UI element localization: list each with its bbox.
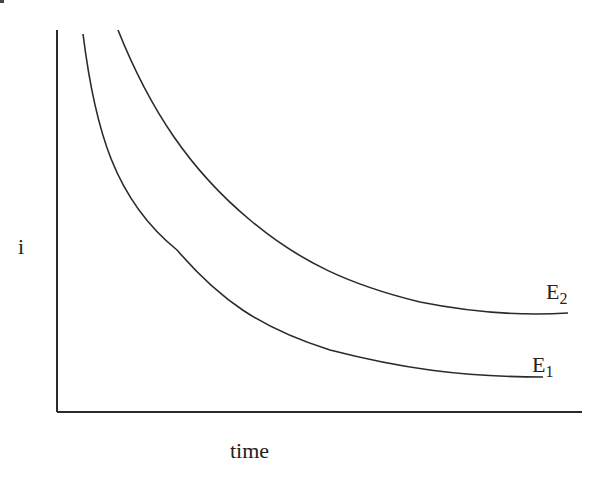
- series-label-e2-main: E: [546, 279, 559, 304]
- series-label-e1-main: E: [532, 352, 545, 377]
- curve-e2: [118, 30, 568, 314]
- curve-e1: [83, 34, 543, 377]
- chart-canvas: [0, 0, 605, 480]
- x-axis-label: time: [230, 438, 269, 464]
- y-axis-label: i: [18, 234, 24, 260]
- series-label-e1: E1: [532, 352, 553, 381]
- series-label-e1-sub: 1: [545, 363, 553, 380]
- series-label-e2-sub: 2: [559, 290, 567, 307]
- series-label-e2: E2: [546, 279, 567, 308]
